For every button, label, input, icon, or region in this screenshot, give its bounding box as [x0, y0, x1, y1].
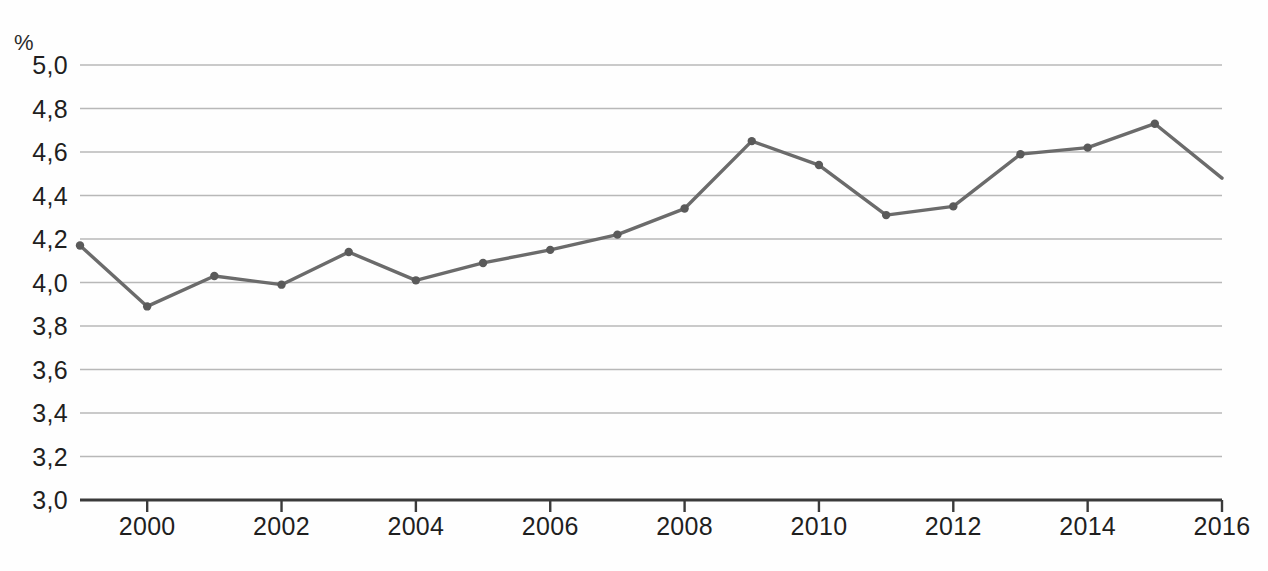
data-point-marker [1016, 150, 1024, 158]
data-point-marker [1083, 143, 1091, 151]
x-axis-tick-label: 2012 [925, 512, 982, 541]
data-point-marker [882, 211, 890, 219]
x-axis-tick-label: 2016 [1194, 512, 1251, 541]
data-point-marker [277, 280, 285, 288]
data-point-marker [748, 137, 756, 145]
x-axis-tick-label: 2010 [791, 512, 848, 541]
gridlines [80, 65, 1222, 457]
data-point-marker [76, 241, 84, 249]
data-point-marker [815, 161, 823, 169]
x-axis-tick-label: 2008 [656, 512, 713, 541]
data-point-marker [546, 246, 554, 254]
x-axis-tick-label: 2006 [522, 512, 579, 541]
data-point-marker [143, 302, 151, 310]
data-point-marker [210, 272, 218, 280]
x-axis-tick-label: 2002 [253, 512, 310, 541]
plot-area [0, 0, 1268, 571]
data-point-marker [1151, 120, 1159, 128]
x-axis-ticks [147, 500, 1222, 512]
data-point-marker [680, 204, 688, 212]
data-point-marker [345, 248, 353, 256]
data-point-marker [412, 276, 420, 284]
x-axis-tick-label: 2000 [119, 512, 176, 541]
line-chart: % 5,04,84,64,44,24,03,83,63,43,23,0 2000… [0, 0, 1268, 571]
x-axis-tick-label: 2004 [387, 512, 444, 541]
data-point-marker [613, 230, 621, 238]
data-point-marker [949, 202, 957, 210]
data-series-line [80, 124, 1222, 307]
x-axis-tick-label: 2014 [1059, 512, 1116, 541]
data-point-marker [479, 259, 487, 267]
